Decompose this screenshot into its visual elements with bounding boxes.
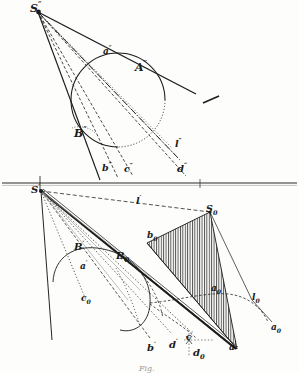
label-S-zero: S0 xyxy=(206,204,217,216)
label-a-zero-right: a0 xyxy=(271,323,281,334)
label-S-prime: S′ xyxy=(31,183,40,195)
label-d-double-prime: d″ xyxy=(177,162,187,174)
label-b-zero: b0 xyxy=(147,231,158,242)
ray-S2-to-l2 xyxy=(38,12,176,156)
stray-dash-mark xyxy=(203,96,219,103)
label-c-zero: c0 xyxy=(81,294,91,305)
ray-S2-left-edge xyxy=(38,12,100,180)
arc-B0 xyxy=(120,258,163,318)
label-l-zero: l0 xyxy=(252,293,260,304)
ray-S2-to-b2 xyxy=(38,12,118,178)
label-d-zero: d0 xyxy=(193,348,205,361)
lower-projection-group xyxy=(39,189,272,357)
figure-caption: Fig. xyxy=(139,364,155,373)
ground-line-group xyxy=(2,176,297,190)
label-B-prime: B′ xyxy=(74,240,84,252)
plan-ray-faint-2 xyxy=(41,191,140,290)
plan-ray-faint-1 xyxy=(41,191,128,300)
label-b-prime: b′ xyxy=(147,341,156,353)
figure-drawing xyxy=(0,0,299,373)
label-S-double-prime: S″ xyxy=(30,1,42,14)
label-a-prime-upper: a′ xyxy=(80,260,88,271)
cone-base-circle-hidden xyxy=(118,100,165,147)
label-B-zero: B0 xyxy=(116,251,129,264)
plan-ray-left-edge xyxy=(41,191,52,340)
label-b-double-prime: b″ xyxy=(102,162,112,173)
label-c-prime: c′ xyxy=(186,331,193,341)
ray-S2-to-d2 xyxy=(38,12,186,176)
label-d-prime: d′ xyxy=(169,338,178,350)
plan-ray-to-d1 xyxy=(41,191,172,334)
engraved-plate: S″ a″ A″ B″ b″ c″ l″ d″ S′ l′ S0 b0 B′ B… xyxy=(0,0,299,373)
label-l-double-prime: l″ xyxy=(175,138,182,149)
label-c-double-prime: c″ xyxy=(124,163,133,174)
label-A-double-prime: A″ xyxy=(135,60,147,73)
upper-projection-group xyxy=(36,10,219,180)
label-a-double-prime: a″ xyxy=(103,45,112,56)
label-a-zero: a0 xyxy=(211,284,221,295)
plan-base-ellipse xyxy=(53,248,150,331)
label-B-double-prime: B″ xyxy=(74,126,87,139)
plan-ray-to-S0 xyxy=(41,191,210,212)
label-a-prime-lower: a′ xyxy=(229,341,237,352)
label-l-prime: l′ xyxy=(136,195,141,206)
